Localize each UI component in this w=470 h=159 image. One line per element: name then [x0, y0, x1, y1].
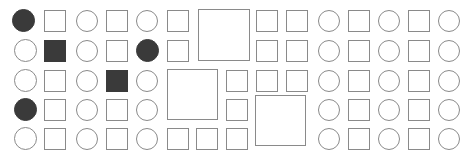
grid-square-light-r1c5[interactable] — [167, 40, 189, 62]
grid-square-light-r2c1[interactable] — [44, 70, 66, 92]
grid-circle-light-r3c9[interactable] — [318, 99, 340, 121]
grid-square-light-r2c10[interactable] — [348, 70, 370, 92]
grid-square-light-r4c3[interactable] — [106, 128, 128, 150]
grid-circle-light-r1c2[interactable] — [76, 40, 98, 62]
grid-square-light-r0c10[interactable] — [348, 10, 370, 32]
grid-circle-dark-r3c0[interactable] — [14, 98, 37, 121]
grid-square-light-r2c8[interactable] — [286, 70, 308, 92]
grid-circle-light-r2c4[interactable] — [136, 70, 158, 92]
grid-square-light-r0c8[interactable] — [286, 10, 308, 32]
grid-circle-light-r2c0[interactable] — [14, 69, 37, 92]
grid-square-light-r2c6[interactable] — [226, 70, 248, 92]
grid-square-light-r1c12[interactable] — [408, 40, 430, 62]
grid-square-light-r0c5[interactable] — [167, 10, 189, 32]
grid-circle-light-r0c2[interactable] — [76, 10, 98, 32]
large-square-big-1[interactable] — [198, 9, 250, 61]
grid-circle-dark-r1c4[interactable] — [136, 39, 159, 62]
grid-circle-light-r4c9[interactable] — [318, 128, 340, 150]
grid-square-light-r1c3[interactable] — [106, 40, 128, 62]
grid-square-light-r1c7[interactable] — [256, 40, 278, 62]
shape-grid-canvas — [0, 0, 470, 159]
grid-circle-light-r4c13[interactable] — [438, 128, 460, 150]
grid-circle-dark-r0c0[interactable] — [12, 9, 35, 32]
grid-square-light-r2c7[interactable] — [256, 70, 278, 92]
grid-circle-light-r1c11[interactable] — [378, 40, 400, 62]
grid-circle-light-r4c4[interactable] — [136, 128, 158, 150]
grid-square-light-r1c10[interactable] — [348, 40, 370, 62]
grid-square-light-r0c1[interactable] — [44, 10, 66, 32]
grid-square-light-r3c3[interactable] — [106, 99, 128, 121]
grid-circle-light-r0c9[interactable] — [318, 10, 340, 32]
grid-square-light-r4c12[interactable] — [408, 128, 430, 150]
grid-circle-light-r2c11[interactable] — [378, 70, 400, 92]
grid-square-light-r3c12[interactable] — [408, 99, 430, 121]
grid-square-light-r4c10[interactable] — [348, 128, 370, 150]
large-square-big-2[interactable] — [167, 69, 218, 120]
grid-circle-light-r4c11[interactable] — [378, 128, 400, 150]
grid-square-light-r3c10[interactable] — [348, 99, 370, 121]
grid-circle-light-r1c9[interactable] — [318, 40, 340, 62]
grid-square-light-r4c5[interactable] — [167, 128, 189, 150]
grid-circle-light-r4c0[interactable] — [14, 127, 37, 150]
grid-circle-light-r1c13[interactable] — [438, 40, 460, 62]
grid-circle-light-r3c13[interactable] — [438, 99, 460, 121]
grid-square-light-r0c3[interactable] — [106, 10, 128, 32]
grid-square-light-r3c1[interactable] — [44, 99, 66, 121]
grid-circle-light-r0c4[interactable] — [136, 10, 158, 32]
grid-square-dark-r1c1[interactable] — [44, 40, 66, 62]
grid-circle-light-r4c2[interactable] — [76, 128, 98, 150]
grid-square-light-r0c7[interactable] — [256, 10, 278, 32]
grid-circle-light-r1c0[interactable] — [14, 39, 37, 62]
grid-circle-light-r2c9[interactable] — [318, 70, 340, 92]
grid-circle-light-r0c13[interactable] — [438, 10, 460, 32]
grid-circle-light-r2c13[interactable] — [438, 70, 460, 92]
grid-square-light-r3c6[interactable] — [226, 99, 248, 121]
grid-square-light-r0c12[interactable] — [408, 10, 430, 32]
large-square-big-3[interactable] — [255, 95, 306, 146]
grid-square-dark-r2c3[interactable] — [106, 70, 128, 92]
grid-circle-light-r0c11[interactable] — [378, 10, 400, 32]
grid-square-light-r4c6[interactable] — [196, 128, 218, 150]
grid-square-light-r4c7[interactable] — [226, 128, 248, 150]
grid-circle-light-r3c11[interactable] — [378, 99, 400, 121]
grid-circle-light-r2c2[interactable] — [76, 70, 98, 92]
grid-circle-light-r3c4[interactable] — [136, 99, 158, 121]
grid-square-light-r2c12[interactable] — [408, 70, 430, 92]
grid-square-light-r1c8[interactable] — [286, 40, 308, 62]
grid-square-light-r4c1[interactable] — [44, 128, 66, 150]
grid-circle-light-r3c2[interactable] — [76, 99, 98, 121]
